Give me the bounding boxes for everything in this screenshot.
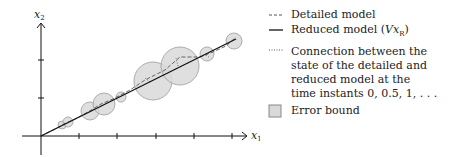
x-axis bbox=[22, 132, 247, 140]
dotted-line-icon bbox=[268, 45, 286, 59]
y-axis-label: x2 bbox=[34, 8, 45, 22]
dashed-line-icon bbox=[268, 8, 286, 22]
diagram-plot: x2 x1 bbox=[0, 0, 260, 157]
error-circle bbox=[161, 47, 199, 85]
gray-box-icon bbox=[268, 104, 286, 118]
legend-item-error-bound: Error bound bbox=[268, 104, 450, 118]
error-bound-circles bbox=[58, 33, 242, 129]
solid-line-icon bbox=[268, 23, 286, 37]
error-circle bbox=[226, 33, 242, 49]
x-axis-label: x1 bbox=[251, 129, 260, 143]
reduced-label: Reduced model (VxR) bbox=[291, 23, 450, 41]
legend-item-detailed: Detailed model bbox=[268, 8, 450, 22]
legend-item-reduced: Reduced model (VxR) bbox=[268, 23, 450, 41]
legend-item-connection: Connection between the state of the deta… bbox=[268, 45, 450, 101]
reduced-model-line bbox=[41, 39, 236, 136]
legend: Detailed model Reduced model (VxR) Conne… bbox=[268, 8, 450, 118]
